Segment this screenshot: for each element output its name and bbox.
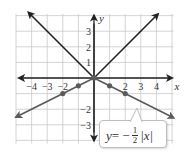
y-tick-label: 1 <box>86 57 91 68</box>
x-tick-label: −2 <box>57 81 68 92</box>
series-abs-x-left <box>28 12 94 78</box>
x-axis-label: x <box>174 80 180 92</box>
equation-callout: y = − 1 2 |x| <box>99 120 167 148</box>
y-tick-label: 3 <box>86 26 91 37</box>
equation-equals: = − <box>112 128 130 144</box>
data-point <box>123 91 128 96</box>
equation-abs: |x| <box>140 128 153 144</box>
data-point <box>60 91 65 96</box>
data-point <box>76 83 81 88</box>
y-tick-label: −2 <box>80 104 91 115</box>
data-point <box>107 83 112 88</box>
callout-pointer <box>128 107 148 123</box>
x-tick-label: −4 <box>26 81 37 92</box>
x-tick-label: 4 <box>154 81 159 92</box>
y-tick-label: 2 <box>86 42 91 53</box>
x-tick-label: 3 <box>138 81 143 92</box>
x-tick-label: 2 <box>123 81 128 92</box>
y-axis-label: y <box>98 12 104 24</box>
data-point <box>91 75 96 80</box>
equation-text: y = − 1 2 |x| <box>106 126 153 145</box>
equation-fraction: 1 2 <box>132 126 139 145</box>
x-tick-label: −3 <box>42 81 53 92</box>
series-abs-x-right <box>94 14 158 78</box>
plot-series <box>16 12 174 117</box>
y-tick-label: −3 <box>80 120 91 131</box>
fraction-denominator: 2 <box>133 136 138 145</box>
